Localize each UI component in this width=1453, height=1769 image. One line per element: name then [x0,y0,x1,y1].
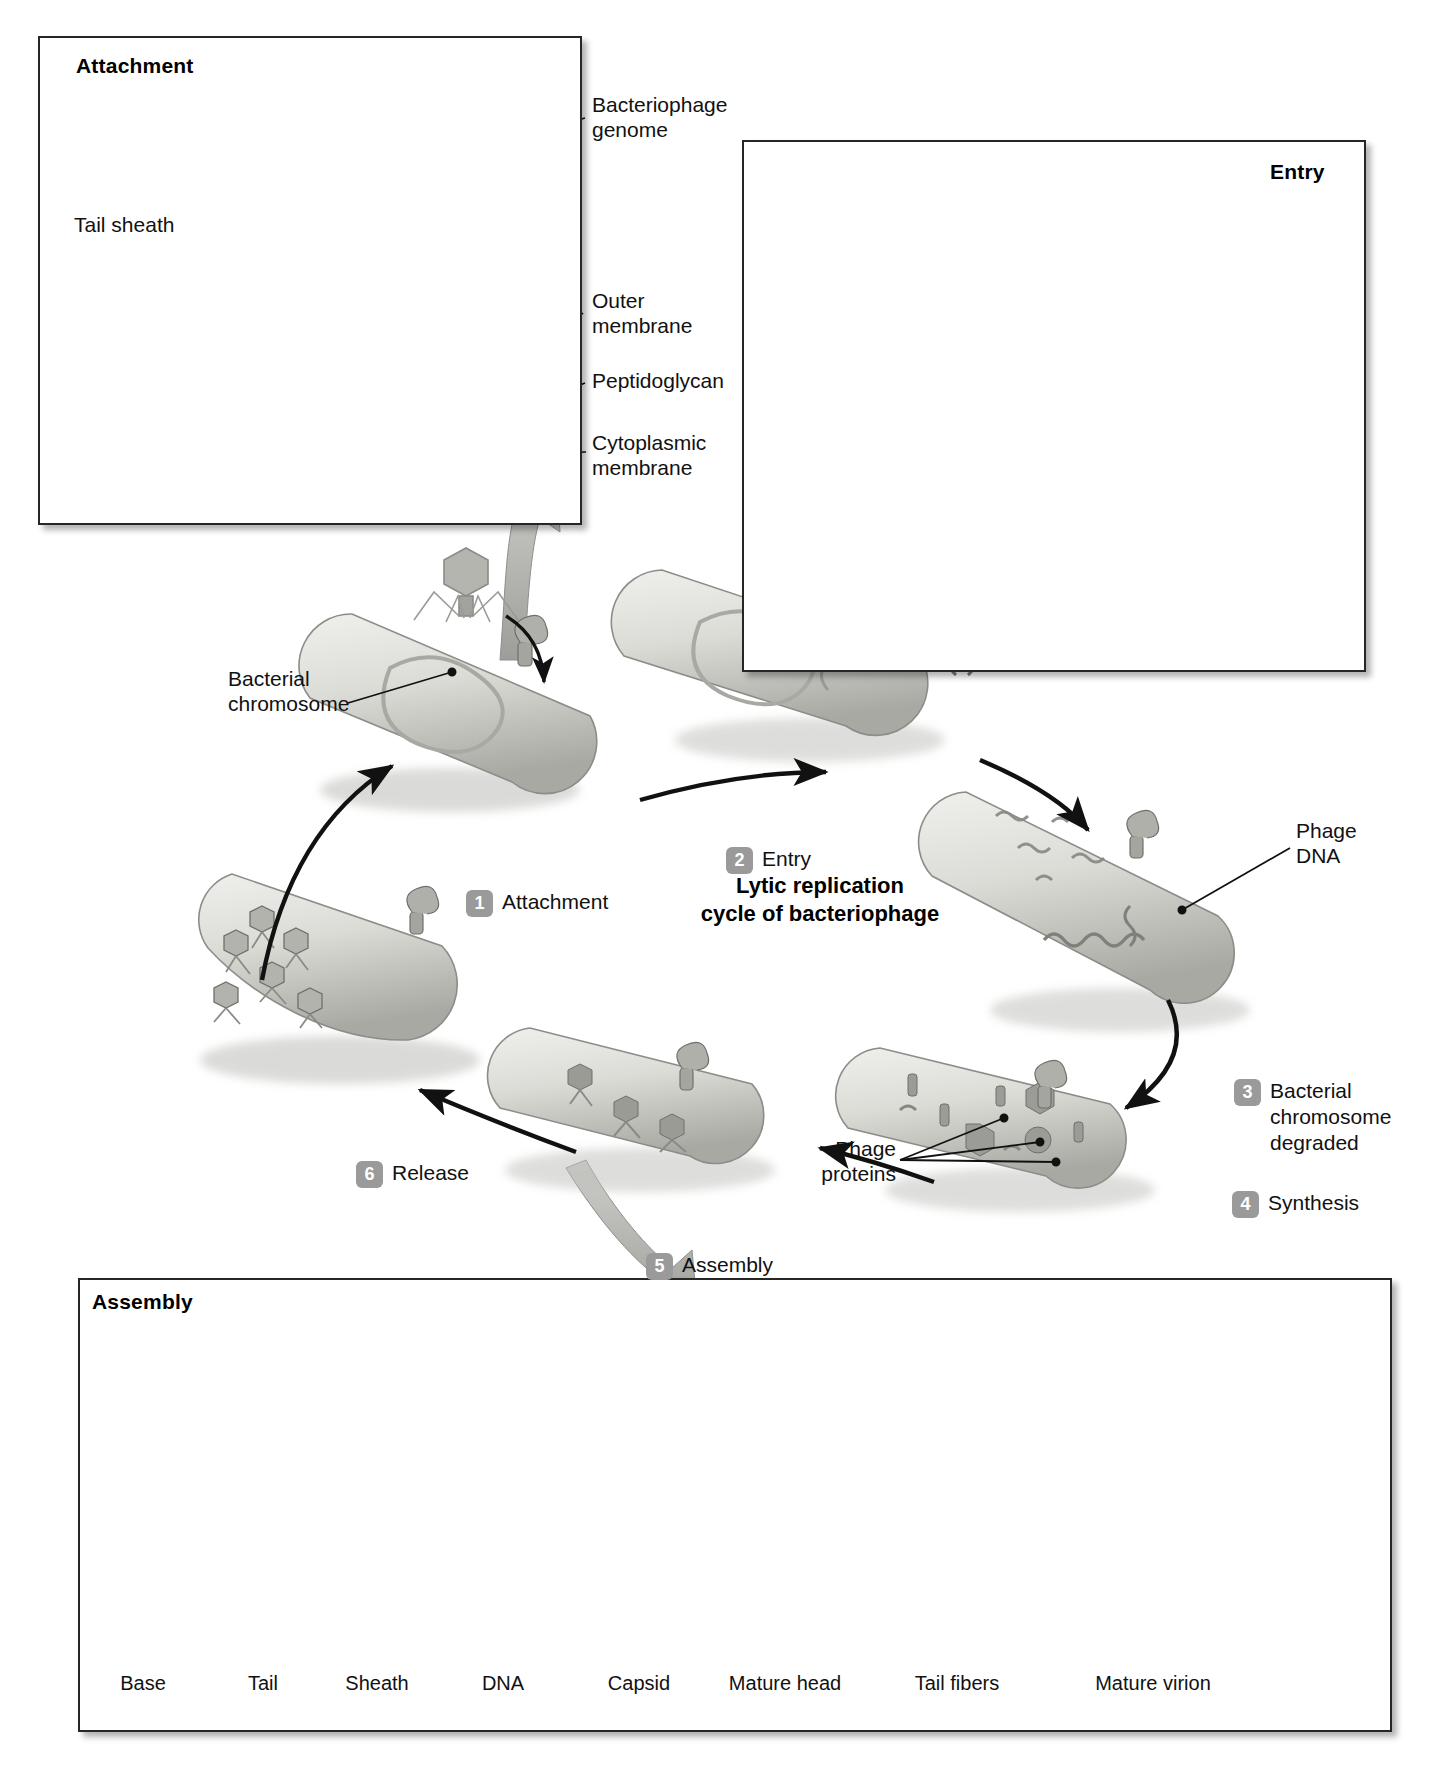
label-tail-sheath: Tail sheath [74,212,174,237]
step-5-badge: 5 [646,1253,673,1280]
callout-phage-proteins: Phage proteins [790,1136,896,1186]
step-2-label: Entry [762,846,811,872]
assembly-caption-mature-head: Mature head [700,1672,870,1695]
step-3: 3 Bacterial chromosome degraded [1234,1078,1391,1156]
step-2-badge: 2 [726,847,753,874]
panel-entry-title: Entry [1270,160,1325,184]
label-bacteriophage-genome: Bacteriophage genome [592,92,727,142]
arrow-2-to-3 [980,760,1088,830]
step-3-label: Bacterial chromosome degraded [1270,1078,1391,1156]
panel-assembly-title: Assembly [92,1290,193,1314]
step-3-badge: 3 [1234,1079,1261,1106]
center-title: Lytic replication cycle of bacteriophage [640,872,1000,928]
panel-entry [742,140,1366,672]
step-1-label: Attachment [502,889,608,915]
assembly-caption-base: Base [78,1672,208,1695]
label-outer-membrane: Outer membrane [592,288,692,338]
free-phage [414,548,518,622]
arrow-6-to-1 [262,766,392,980]
step-1-badge: 1 [466,890,493,917]
step-5: 5 Assembly [646,1252,773,1280]
cell-step4 [836,1048,1155,1212]
arrow-3-to-4 [1126,1000,1177,1108]
callout-phage-dna: Phage DNA [1296,818,1357,868]
assembly-caption-capsid: Capsid [574,1672,704,1695]
figure-canvas: Attachment Entry Assembly Bacteriophage … [0,0,1453,1769]
assembly-caption-mature-virion: Mature virion [1058,1672,1248,1695]
arrow-5-to-6 [420,1090,576,1152]
assembly-caption-dna: DNA [438,1672,568,1695]
step-4: 4 Synthesis [1232,1190,1359,1218]
arrow-1-to-2 [640,772,826,800]
step-4-badge: 4 [1232,1191,1259,1218]
step-5-label: Assembly [682,1252,773,1278]
panel-assembly [78,1278,1392,1732]
step-2: 2 Entry [726,846,811,874]
assembly-caption-tail-fibers: Tail fibers [872,1672,1042,1695]
panel-attachment-title: Attachment [76,54,194,78]
assembly-caption-sheath: Sheath [312,1672,442,1695]
step-4-label: Synthesis [1268,1190,1359,1216]
step-6: 6 Release [356,1160,469,1188]
panel-attachment [38,36,582,525]
cell-step5 [487,1028,775,1192]
step-6-badge: 6 [356,1161,383,1188]
arrow-phage-to-cell [506,616,544,682]
label-cytoplasmic-membrane: Cytoplasmic membrane [592,430,706,480]
assembly-caption-tail: Tail [198,1672,328,1695]
step-6-label: Release [392,1160,469,1186]
cell-step6 [199,874,480,1084]
callout-bacterial-chromosome: Bacterial chromosome [228,666,349,716]
step-1: 1 Attachment [466,889,608,917]
label-peptidoglycan: Peptidoglycan [592,368,724,393]
